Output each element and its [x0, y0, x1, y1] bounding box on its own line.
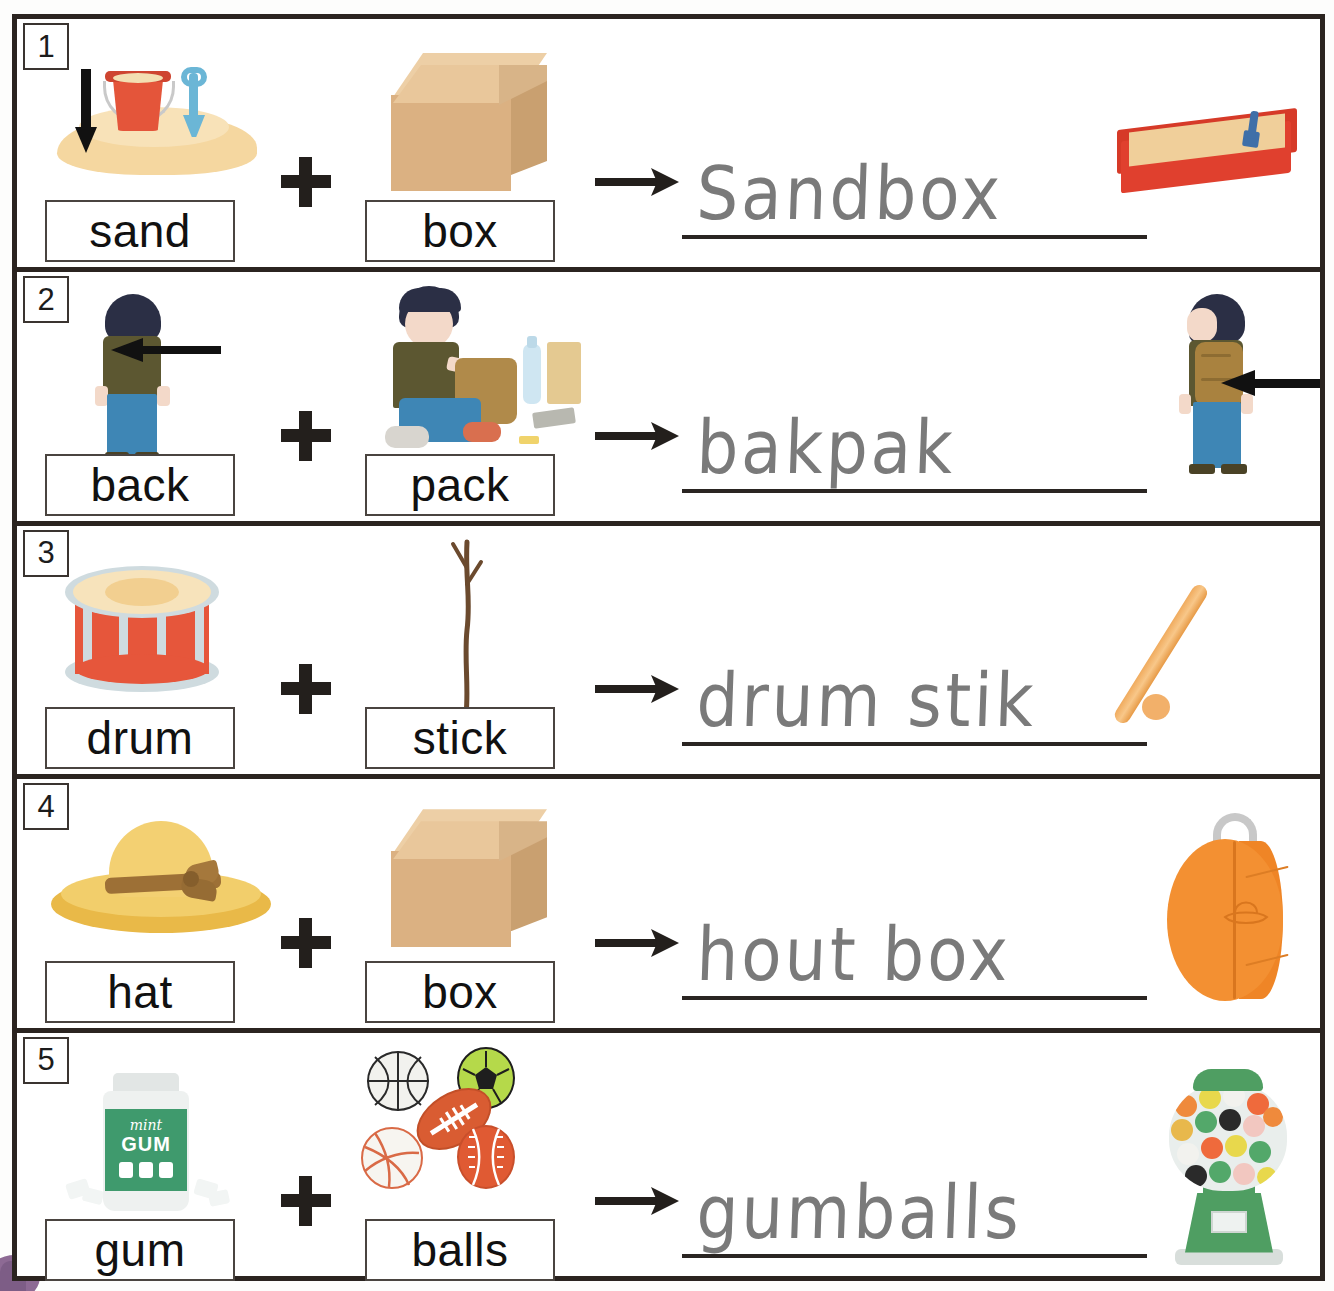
- plus-sign-row-1: [279, 155, 333, 209]
- word-box-box-row-4: box: [365, 961, 555, 1023]
- plus-sign-row-3: [279, 662, 333, 716]
- worksheet-row-5: 5 mint GUM: [17, 1033, 1320, 1286]
- handwritten-answer-row-1: Sandbox: [695, 151, 1004, 237]
- handwritten-answer-row-2: bakpak: [695, 405, 957, 491]
- plus-sign-row-4: [279, 916, 333, 970]
- worksheet-row-1: 1 sand box: [17, 19, 1320, 272]
- word-box-sand: sand: [45, 200, 235, 262]
- picture-child-from-behind: [77, 294, 197, 454]
- handwritten-answer-row-5: gumballs: [695, 1170, 1023, 1256]
- word-box-drum: drum: [45, 707, 235, 769]
- row-number-4: 4: [23, 783, 69, 830]
- pointer-arrow-icon-back: [111, 338, 221, 362]
- word-box-back: back: [45, 454, 235, 516]
- arrow-right-icon-row-3: [595, 674, 679, 704]
- worksheet-row-4: 4 hat box hout box: [17, 779, 1320, 1032]
- word-box-hat: hat: [45, 961, 235, 1023]
- word-box-box: box: [365, 200, 555, 262]
- plus-sign-row-5: [279, 1174, 333, 1228]
- pointer-arrow-icon-backpack: [1221, 370, 1320, 396]
- picture-child-packing-backpack: [347, 286, 577, 466]
- arrow-right-icon-row-2: [595, 421, 679, 451]
- word-box-balls: balls: [365, 1219, 555, 1281]
- word-box-stick: stick: [365, 707, 555, 769]
- row-number-1: 1: [23, 23, 69, 70]
- handwritten-answer-row-3: drum stik: [695, 658, 1038, 744]
- row-number-3: 3: [23, 530, 69, 577]
- worksheet-scan: 1 sand box: [0, 0, 1334, 1291]
- word-box-gum: gum: [45, 1219, 235, 1281]
- arrow-right-icon-row-4: [595, 928, 679, 958]
- word-box-pack: pack: [365, 454, 555, 516]
- worksheet-row-2: 2: [17, 272, 1320, 525]
- arrow-right-icon-row-5: [595, 1186, 679, 1216]
- row-number-5: 5: [23, 1037, 69, 1084]
- handwritten-answer-row-4: hout box: [695, 911, 1012, 997]
- worksheet-frame: 1 sand box: [12, 14, 1325, 1281]
- plus-sign-row-2: [279, 409, 333, 463]
- hat-emblem-icon: [1223, 891, 1269, 931]
- row-number-2: 2: [23, 276, 69, 323]
- worksheet-row-3: 3 drum stick: [17, 526, 1320, 779]
- arrow-right-icon-row-1: [595, 167, 679, 197]
